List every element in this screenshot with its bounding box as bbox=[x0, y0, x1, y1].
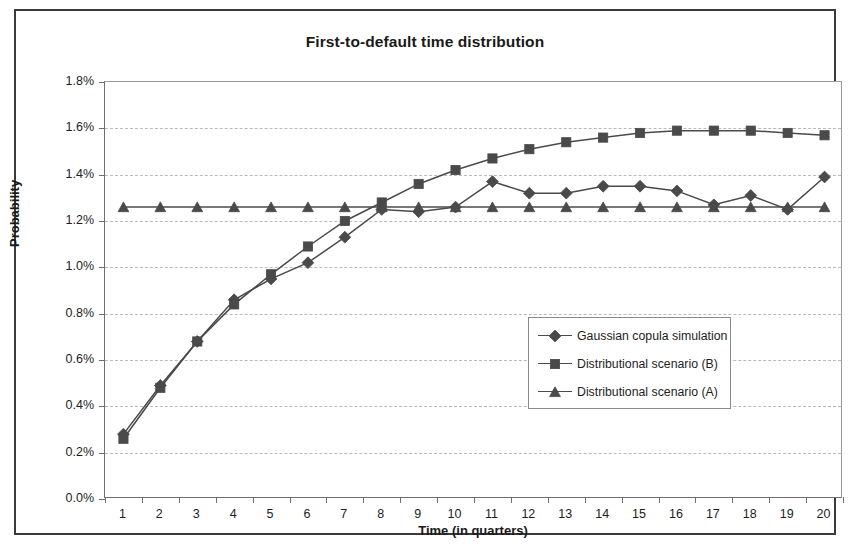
series-triangle bbox=[118, 202, 830, 212]
y-axis-title: Probability bbox=[7, 180, 22, 247]
plot-area bbox=[104, 81, 842, 498]
legend-item-label: Distributional scenario (A) bbox=[577, 385, 718, 399]
x-tick-label: 4 bbox=[213, 507, 253, 521]
series-plot bbox=[105, 82, 843, 499]
x-tick-label: 8 bbox=[361, 507, 401, 521]
y-tick-label: 0.6% bbox=[34, 352, 94, 366]
y-tick-label: 1.8% bbox=[34, 74, 94, 88]
y-tick-label: 0.0% bbox=[34, 491, 94, 505]
x-tick-label: 11 bbox=[471, 507, 511, 521]
legend: Gaussian copula simulation Distributiona… bbox=[528, 317, 731, 409]
x-tick-label: 18 bbox=[730, 507, 770, 521]
image-frame: First-to-default time distribution Proba… bbox=[14, 9, 836, 535]
x-tick-label: 13 bbox=[545, 507, 585, 521]
x-tick-label: 12 bbox=[508, 507, 548, 521]
x-tick-label: 17 bbox=[693, 507, 733, 521]
legend-item-gaussian-copula-simulation[interactable]: Gaussian copula simulation bbox=[538, 326, 727, 346]
x-tick-label: 16 bbox=[656, 507, 696, 521]
x-tick-label: 2 bbox=[139, 507, 179, 521]
x-tick-label: 20 bbox=[804, 507, 844, 521]
legend-item-label: Distributional scenario (B) bbox=[577, 357, 718, 371]
y-tick-label: 1.2% bbox=[34, 213, 94, 227]
triangle-marker-icon bbox=[538, 385, 572, 399]
x-tick-label: 7 bbox=[324, 507, 364, 521]
legend-item-distributional-scenario-b[interactable]: Distributional scenario (B) bbox=[538, 354, 718, 374]
x-tick-label: 3 bbox=[176, 507, 216, 521]
y-tick-label: 0.2% bbox=[34, 445, 94, 459]
x-axis-title: Time (in quarters) bbox=[104, 523, 842, 538]
y-tick-label: 1.6% bbox=[34, 120, 94, 134]
diamond-marker-icon bbox=[538, 329, 572, 343]
x-tick-mark bbox=[843, 497, 844, 503]
chart-title: First-to-default time distribution bbox=[16, 33, 834, 51]
x-tick-label: 10 bbox=[435, 507, 475, 521]
square-marker-icon bbox=[538, 357, 572, 371]
legend-item-distributional-scenario-a[interactable]: Distributional scenario (A) bbox=[538, 382, 718, 402]
y-tick-label: 0.4% bbox=[34, 398, 94, 412]
y-tick-label: 0.8% bbox=[34, 306, 94, 320]
x-tick-label: 1 bbox=[102, 507, 142, 521]
y-tick-label: 1.0% bbox=[34, 259, 94, 273]
x-tick-label: 15 bbox=[619, 507, 659, 521]
x-tick-label: 6 bbox=[287, 507, 327, 521]
y-tick-label: 1.4% bbox=[34, 167, 94, 181]
x-tick-label: 19 bbox=[767, 507, 807, 521]
x-tick-label: 14 bbox=[582, 507, 622, 521]
legend-item-label: Gaussian copula simulation bbox=[577, 329, 727, 343]
x-tick-label: 5 bbox=[250, 507, 290, 521]
x-tick-label: 9 bbox=[398, 507, 438, 521]
